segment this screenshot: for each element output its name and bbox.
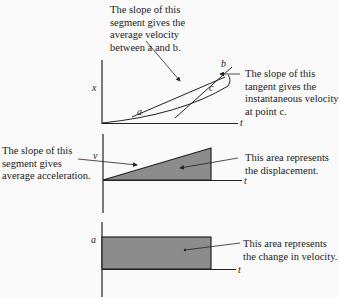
velocity-change-note: This area represents the change in veloc… [243,238,337,263]
acceleration-time-graph [102,222,240,297]
x-axis-label: x [92,82,96,93]
tangent-line [175,67,232,118]
slope-note: The slope of this segment gives average … [2,145,91,183]
a-axis-label: a [91,234,96,245]
v-axis-label: v [93,150,97,161]
secant-note: The slope of this segment gives the aver… [110,4,185,54]
velocity-time-graph [78,134,242,213]
point-a-label: a [137,106,142,117]
tangent-note: The slope of this tangent gives the inst… [245,68,339,118]
t-axis-label-bottom: t [238,264,241,275]
point-b-label: b [221,58,226,69]
displacement-note: This area represents the displacement. [245,152,329,177]
t-axis-label-top: t [240,117,243,128]
point-c-label: c [209,82,213,93]
